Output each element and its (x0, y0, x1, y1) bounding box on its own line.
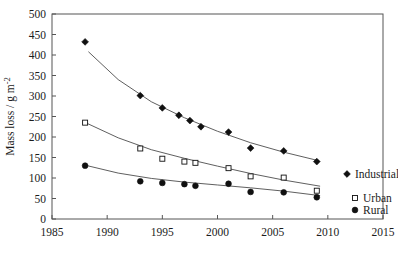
y-tick-label: 450 (29, 29, 47, 41)
data-point-urban (83, 120, 88, 125)
data-point-rural (82, 163, 88, 169)
x-tick-label: 2000 (206, 226, 229, 238)
legend-label-rural: Rural (363, 204, 389, 216)
data-point-urban (226, 166, 231, 171)
y-tick-label: 350 (29, 70, 47, 82)
y-axis-title: Mass loss / g m-2 (2, 77, 17, 156)
data-point-rural (314, 194, 320, 200)
data-point-rural (281, 189, 287, 195)
legend-marker-urban (353, 196, 358, 201)
y-tick-label: 250 (29, 111, 47, 123)
chart-container: 050100150200250300350400450500 198519901… (0, 0, 398, 256)
y-tick-label: 300 (29, 90, 47, 102)
y-tick-label: 150 (29, 152, 47, 164)
x-tick-label: 2015 (372, 226, 395, 238)
y-tick-label: 100 (29, 172, 47, 184)
x-tick-label: 1990 (96, 226, 119, 238)
x-tick-label: 1985 (41, 226, 64, 238)
x-tick-label: 2010 (316, 226, 339, 238)
y-axis-label: Mass loss / g m-2 (2, 77, 17, 156)
y-tick-label: 50 (35, 193, 47, 205)
x-tick-label: 1995 (151, 226, 174, 238)
data-point-urban (193, 160, 198, 165)
data-point-rural (193, 183, 199, 189)
y-tick-label: 500 (29, 8, 47, 20)
data-point-rural (226, 181, 232, 187)
data-point-rural (182, 181, 188, 187)
legend-label-industrial: Industrial (355, 168, 398, 180)
y-tick-label: 400 (29, 49, 47, 61)
legend-marker-rural (352, 207, 358, 213)
data-point-urban (314, 188, 319, 193)
data-point-urban (248, 174, 253, 179)
data-point-urban (160, 156, 165, 161)
y-tick-label: 0 (40, 213, 46, 225)
data-point-rural (137, 178, 143, 184)
y-tick-label: 200 (29, 131, 47, 143)
mass-loss-scatter-chart: 050100150200250300350400450500 198519901… (0, 0, 398, 256)
data-point-rural (248, 189, 254, 195)
data-point-urban (182, 159, 187, 164)
data-point-rural (159, 180, 165, 186)
data-point-urban (281, 175, 286, 180)
data-point-urban (138, 146, 143, 151)
legend-label-urban: Urban (363, 192, 392, 204)
x-tick-label: 2005 (261, 226, 284, 238)
